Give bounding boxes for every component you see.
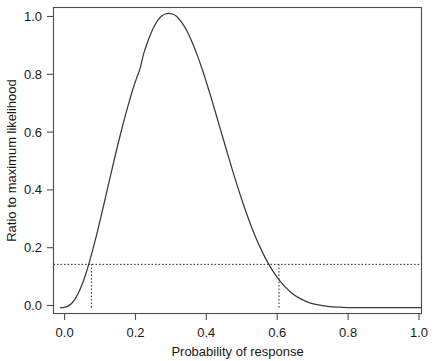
y-axis-ticks (47, 17, 54, 306)
x-axis-title: Probability of response (171, 344, 303, 359)
x-tick-label-0.2: 0.2 (126, 325, 144, 340)
y-tick-label-0.6: 0.6 (24, 125, 42, 140)
y-tick-label-0.0: 0.0 (24, 298, 42, 313)
likelihood-ratio-chart: 1.0 0.8 0.6 0.4 0.2 0.0 0.0 0.2 0.4 0.6 … (0, 0, 437, 361)
y-axis-tick-labels: 1.0 0.8 0.6 0.4 0.2 0.0 (24, 9, 42, 313)
y-tick-label-0.8: 0.8 (24, 67, 42, 82)
y-tick-label-0.4: 0.4 (24, 182, 42, 197)
y-tick-label-0.2: 0.2 (24, 240, 42, 255)
likelihood-ratio-curve (61, 13, 422, 307)
x-axis-tick-labels: 0.0 0.2 0.4 0.6 0.8 1.0 (56, 325, 428, 340)
x-axis-ticks (65, 314, 419, 321)
x-tick-label-1.0: 1.0 (410, 325, 428, 340)
chart-canvas: 1.0 0.8 0.6 0.4 0.2 0.0 0.0 0.2 0.4 0.6 … (0, 0, 437, 361)
x-tick-label-0.6: 0.6 (268, 325, 286, 340)
x-tick-label-0.8: 0.8 (339, 325, 357, 340)
x-tick-label-0.0: 0.0 (56, 325, 74, 340)
x-tick-label-0.4: 0.4 (197, 325, 215, 340)
plot-frame (54, 8, 422, 314)
y-axis-title: Ratio to maximum likelihood (4, 79, 19, 242)
y-tick-label-1.0: 1.0 (24, 9, 42, 24)
